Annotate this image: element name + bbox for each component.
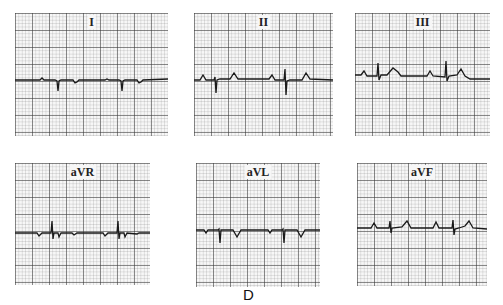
ecg-trace: [194, 13, 333, 136]
ecg-panel-lead-i: I: [15, 13, 168, 136]
ecg-panel-lead-avf: aVF: [357, 163, 487, 286]
ecg-panel-lead-ii: II: [194, 13, 333, 136]
ecg-trace: [15, 163, 150, 285]
figure-caption: D: [243, 286, 254, 303]
ecg-trace: [357, 163, 487, 286]
ecg-panel-lead-avr: aVR: [15, 163, 150, 285]
ecg-trace: [15, 13, 168, 136]
ecg-trace: [355, 13, 490, 136]
ecg-trace: [196, 163, 320, 287]
ecg-panel-lead-iii: III: [355, 13, 490, 136]
ecg-panel-lead-avl: aVL: [196, 163, 320, 287]
